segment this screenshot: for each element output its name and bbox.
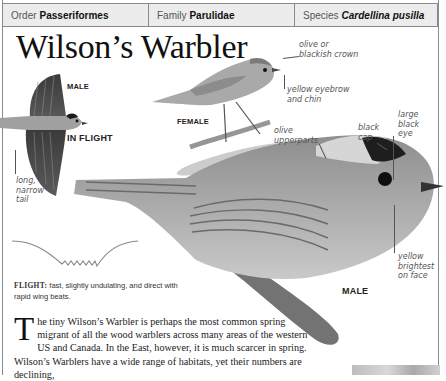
- cap-annotation: black cap: [358, 123, 379, 142]
- order-cell: Order Passeriformes: [3, 4, 148, 26]
- eye-annotation: large black eye: [398, 110, 419, 139]
- flight-pattern-diagram: [12, 236, 142, 276]
- crown-annotation: olive or blackish crown: [299, 40, 358, 59]
- order-value: Passeriformes: [40, 10, 109, 21]
- upperparts-annotation: olive upperparts: [274, 126, 318, 145]
- habitat-photo: [352, 365, 440, 375]
- flight-sex-label: MALE: [67, 82, 89, 91]
- species-description: T he tiny Wilson’s Warbler is perhaps th…: [14, 315, 314, 381]
- family-value: Parulidae: [189, 10, 234, 21]
- species-label: Species: [303, 10, 339, 21]
- family-label: Family: [157, 10, 186, 21]
- tail-leader-line: [15, 150, 16, 174]
- eye-leader-line: [393, 136, 394, 180]
- tail-annotation: long, narrow tail: [16, 176, 44, 205]
- eyebrow-leader-line: [284, 75, 285, 89]
- flight-caption: FLIGHT: fast, slightly undulating, and d…: [14, 281, 194, 303]
- description-paragraph: he tiny Wilson’s Warbler is perhaps the …: [14, 315, 314, 381]
- family-cell: Family Parulidae: [148, 4, 294, 26]
- species-value: Cardellina pusilla: [342, 10, 425, 21]
- drop-cap: T: [14, 316, 34, 342]
- flight-key: FLIGHT:: [14, 281, 47, 290]
- face-annotation: yellow brightest on face: [398, 252, 434, 281]
- order-label: Order: [11, 10, 37, 21]
- eyebrow-annotation: yellow eyebrow and chin: [287, 85, 349, 104]
- face-leader-line: [394, 205, 395, 253]
- species-cell: Species Cardellina pusilla: [294, 4, 437, 26]
- taxonomy-header: Order Passeriformes Family Parulidae Spe…: [2, 3, 438, 27]
- male-label: MALE: [342, 286, 368, 296]
